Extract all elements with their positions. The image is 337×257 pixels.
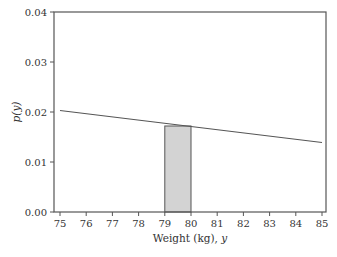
x-tick-label: 77 [106,218,119,229]
y-axis-label: p(y) [10,102,22,123]
x-tick-label: 84 [289,218,302,229]
shaded-probability-bar [165,126,191,212]
x-tick-label: 75 [54,218,67,229]
y-tick-label: 0.02 [25,107,47,118]
y-tick-label: 0.03 [25,57,47,68]
chart-canvas: 0.000.010.020.030.0475767778798081828384… [0,0,337,257]
x-tick-label: 85 [316,218,329,229]
x-tick-label: 79 [158,218,171,229]
y-tick-label: 0.00 [25,207,47,218]
x-tick-label: 78 [132,218,145,229]
x-tick-label: 82 [237,218,250,229]
y-tick-label: 0.04 [25,7,47,18]
x-axis-label: Weight (kg), y [153,232,229,244]
x-tick-label: 81 [211,218,224,229]
x-tick-label: 83 [263,218,276,229]
y-tick-label: 0.01 [25,157,47,168]
x-tick-label: 76 [80,218,93,229]
x-tick-label: 80 [185,218,198,229]
